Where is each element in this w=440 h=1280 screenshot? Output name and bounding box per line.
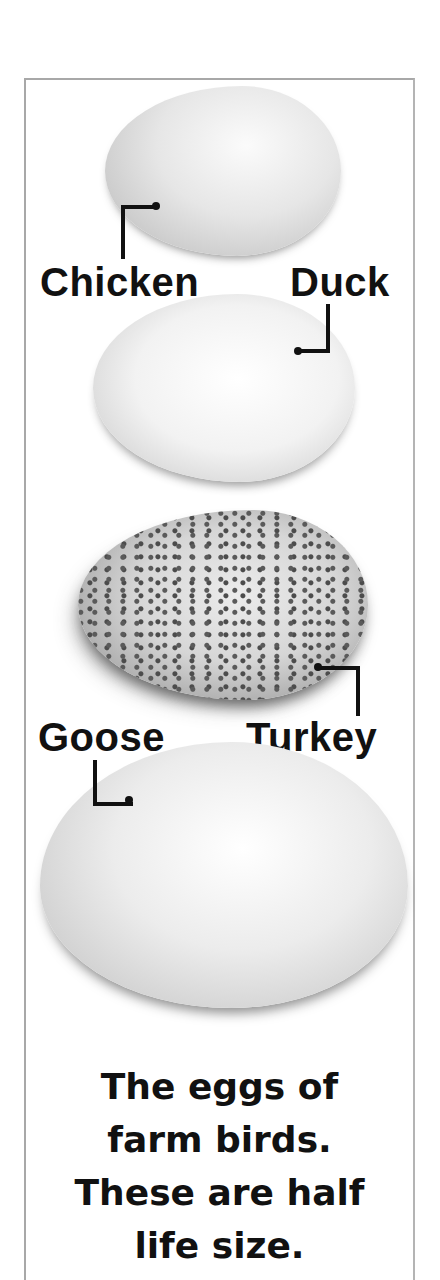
duck-label: Duck	[290, 262, 390, 302]
figure-caption: The eggs of farm birds. These are half l…	[24, 1060, 415, 1272]
goose-label: Goose	[38, 717, 165, 757]
caption-line-4: life size.	[24, 1219, 415, 1272]
turkey-leader-line	[320, 666, 360, 716]
chicken-pointer-dot	[152, 202, 160, 210]
chicken-leader-line	[121, 205, 159, 259]
caption-line-2: farm birds.	[24, 1113, 415, 1166]
caption-line-1: The eggs of	[24, 1060, 415, 1113]
caption-line-3: These are half	[24, 1166, 415, 1219]
goose-pointer-dot	[125, 796, 133, 804]
turkey-pointer-dot	[314, 663, 322, 671]
duck-pointer-dot	[294, 347, 302, 355]
duck-leader-line	[298, 304, 330, 353]
chicken-label: Chicken	[40, 262, 199, 302]
